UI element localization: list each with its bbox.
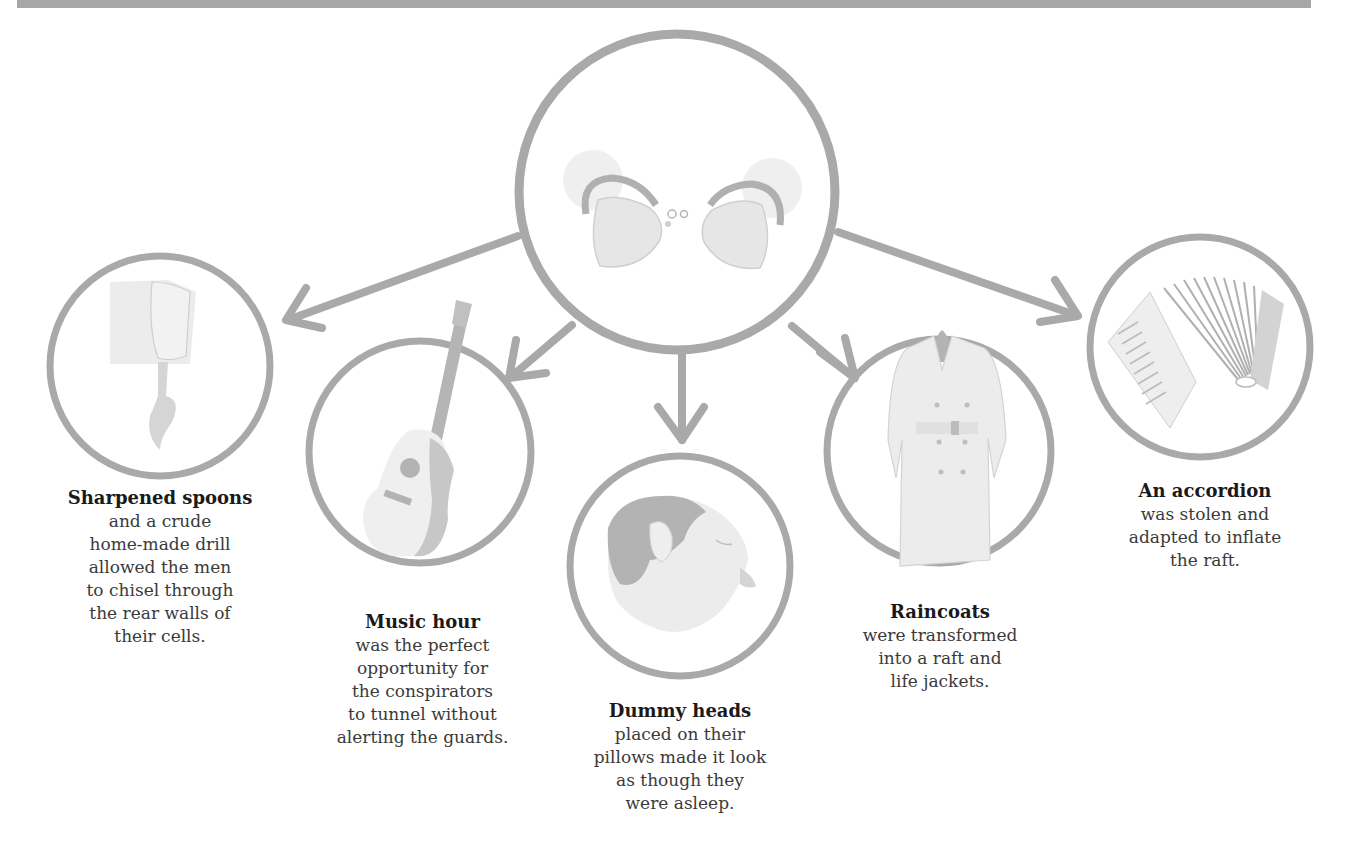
accordion-title: An accordion [1090,479,1320,503]
raincoat-icon [888,330,1006,566]
arrow-to-dummy [658,352,704,440]
sharpened-spoon-fist-icon [110,280,196,450]
dummy-caption: Dummy heads placed on their pillows made… [565,699,795,815]
guitar-caption: Music hour was the perfect opportunity f… [305,610,540,749]
dummy-description: placed on their pillows made it look as … [565,723,795,815]
guitar-title: Music hour [305,610,540,634]
arrow-to-raincoat [792,326,855,378]
handcuffs-broken-icon [563,150,802,268]
raincoat-description: were transformed into a raft and life ja… [830,624,1050,693]
accordion-caption: An accordion was stolen and adapted to i… [1090,479,1320,572]
spoons-title: Sharpened spoons [35,486,285,510]
raincoat-title: Raincoats [830,600,1050,624]
arrow-to-spoons [286,236,518,328]
spoons-description: and a crude home-made drill allowed the … [35,510,285,648]
raincoat-caption: Raincoats were transformed into a raft a… [830,600,1050,693]
spoons-caption: Sharpened spoons and a crude home-made d… [35,486,285,648]
dummy-title: Dummy heads [565,699,795,723]
guitar-description: was the perfect opportunity for the cons… [305,634,540,749]
accordion-description: was stolen and adapted to inflate the ra… [1090,503,1320,572]
arrow-to-accordion [838,232,1078,322]
dummy-head-icon [608,496,756,632]
arrow-to-guitar [509,325,572,378]
accordion-icon [1108,277,1284,428]
